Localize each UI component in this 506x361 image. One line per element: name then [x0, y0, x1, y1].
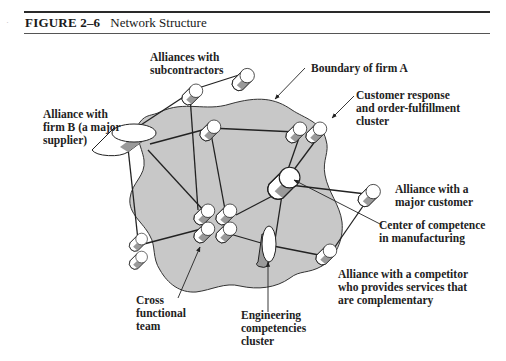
- label-line: in manufacturing: [379, 232, 485, 245]
- label-line: major customer: [395, 196, 473, 209]
- label-line: Alliances with: [150, 51, 223, 64]
- label-line: team: [136, 320, 186, 333]
- label-firm-b: Alliance with firm B (a major supplier): [43, 108, 121, 147]
- label-cross-functional-team: Cross functional team: [136, 294, 186, 333]
- label-competitor: Alliance with a competitor who provides …: [338, 268, 468, 307]
- subcontractor-node-1: [182, 84, 203, 105]
- label-line: Engineering: [241, 309, 306, 322]
- firm-a-boundary: [130, 99, 342, 292]
- label-customer-response: Customer response and order-fulfillment …: [356, 89, 460, 128]
- label-line: Center of competence: [379, 219, 485, 232]
- label-line: Boundary of firm A: [311, 62, 408, 75]
- label-boundary-firm-a: Boundary of firm A: [311, 62, 408, 75]
- label-line: who provides services that: [338, 281, 468, 294]
- label-center-of-competence: Center of competence in manufacturing: [379, 219, 485, 245]
- label-line: subcontractors: [150, 64, 223, 77]
- label-subcontractors: Alliances with subcontractors: [150, 51, 223, 77]
- label-line: Alliance with a competitor: [338, 268, 468, 281]
- label-line: Alliance with: [43, 108, 121, 121]
- label-line: are complementary: [338, 294, 468, 307]
- subcontractor-node-2: [232, 68, 254, 90]
- major-customer-node: [358, 184, 380, 206]
- external-pair-node: [129, 233, 147, 269]
- label-line: cluster: [241, 335, 306, 348]
- label-line: firm B (a major: [43, 121, 121, 134]
- label-line: cluster: [356, 115, 460, 128]
- label-line: Customer response: [356, 89, 460, 102]
- label-major-customer: Alliance with a major customer: [395, 183, 473, 209]
- label-line: functional: [136, 307, 186, 320]
- label-line: supplier): [43, 134, 121, 147]
- label-line: Cross: [136, 294, 186, 307]
- label-engineering-cluster: Engineering competencies cluster: [241, 309, 306, 348]
- label-line: and order-fulfillment: [356, 102, 460, 115]
- label-line: competencies: [241, 322, 306, 335]
- label-line: Alliance with a: [395, 183, 473, 196]
